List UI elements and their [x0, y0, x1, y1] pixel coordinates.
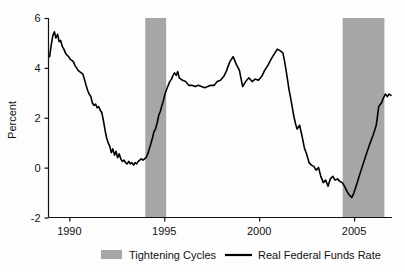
x-tick-label-1995: 1995: [152, 225, 176, 237]
y-tick-label-2: 2: [34, 112, 40, 124]
legend-swatch-tightening-cycles: [101, 250, 122, 259]
y-tick-label-6: 6: [34, 12, 40, 24]
legend-label-tightening-cycles: Tightening Cycles: [129, 249, 217, 261]
y-axis-title: Percent: [6, 101, 18, 139]
x-tick-label-2005: 2005: [342, 225, 366, 237]
x-tick-label-2000: 2000: [247, 225, 271, 237]
y-tick-label-4: 4: [34, 62, 40, 74]
chart-figure: -20246 1990199520002005 Percent Tighteni…: [0, 0, 405, 272]
legend-label-real-federal-funds-rate: Real Federal Funds Rate: [258, 249, 381, 261]
real-federal-funds-rate-chart: -20246 1990199520002005 Percent Tighteni…: [0, 0, 405, 272]
tightening-cycle-band-1: [145, 18, 166, 218]
tightening-cycle-band-2: [343, 18, 385, 218]
y-tick-label-0: 0: [34, 162, 40, 174]
x-tick-label-1990: 1990: [57, 225, 81, 237]
y-tick-label--2: -2: [31, 212, 41, 224]
